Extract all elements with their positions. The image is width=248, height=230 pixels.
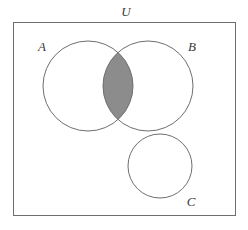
universe-rectangle [14, 23, 236, 216]
set-label-c: C [187, 194, 196, 209]
venn-diagram-figure: U A B C [0, 0, 248, 230]
venn-diagram-canvas: U A B C [0, 0, 248, 230]
set-label-a: A [37, 39, 46, 54]
set-label-b: B [188, 39, 196, 54]
universe-label: U [121, 4, 132, 19]
